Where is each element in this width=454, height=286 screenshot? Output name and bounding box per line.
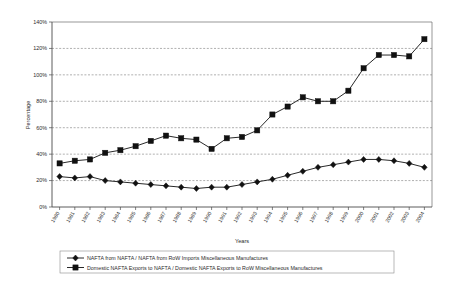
x-tick-label: 1987 (156, 210, 167, 223)
gridlines (52, 48, 432, 180)
percentage-line-chart: 0%20%40%60%80%100%120%140% 1980198119821… (0, 0, 454, 286)
x-tick-label: 1985 (125, 210, 136, 223)
y-tick-label: 100% (33, 72, 47, 78)
x-tick-label: 1991 (217, 210, 228, 223)
data-series (57, 37, 427, 192)
x-tick-label: 2004 (414, 210, 425, 223)
series-marker-square (239, 134, 244, 139)
series-marker-square (209, 146, 214, 151)
x-tick-label: 1984 (110, 210, 121, 223)
series-marker-diamond (346, 159, 352, 165)
x-tick-label: 1990 (201, 210, 212, 223)
x-tick-label: 1980 (49, 210, 60, 223)
x-tick-label: 1988 (171, 210, 182, 223)
series-marker-diamond (391, 158, 397, 164)
series-marker-diamond (254, 179, 260, 185)
y-tick-label: 60% (36, 125, 47, 131)
series-marker-diamond (209, 184, 215, 190)
series-marker-diamond (102, 178, 108, 184)
x-tick-label: 1986 (141, 210, 152, 223)
series-marker-square (300, 95, 305, 100)
series-marker-diamond (224, 184, 230, 190)
legend-label-1: Domestic NAFTA Exports to NAFTA / Domest… (87, 265, 323, 271)
x-tick-label: 1998 (323, 210, 334, 223)
series-marker-square (376, 52, 381, 57)
x-tick-label: 1981 (65, 210, 76, 223)
x-tick-label: 1992 (232, 210, 243, 223)
y-tick-label: 120% (33, 45, 47, 51)
series-marker-diamond (148, 182, 154, 188)
series-marker-square (285, 104, 290, 109)
series-marker-square (270, 112, 275, 117)
series-marker-diamond (315, 164, 321, 170)
series-marker-square (87, 157, 92, 162)
y-tick-label: 80% (36, 98, 47, 104)
x-tick-label: 1994 (262, 210, 273, 223)
series-marker-square (57, 161, 62, 166)
series-marker-square (163, 133, 168, 138)
y-axis: 0%20%40%60%80%100%120%140% (33, 19, 52, 210)
series-marker-diamond (87, 174, 93, 180)
series-marker-square (72, 158, 77, 163)
x-tick-label: 1995 (277, 210, 288, 223)
series-marker-diamond (72, 175, 78, 181)
x-tick-label: 1999 (338, 210, 349, 223)
series-marker-square (148, 138, 153, 143)
x-tick-label: 1993 (247, 210, 258, 223)
series-marker-diamond (239, 182, 245, 188)
y-tick-label: 140% (33, 19, 47, 25)
x-tick-label: 2003 (399, 210, 410, 223)
x-tick-label: 2002 (384, 210, 395, 223)
series-marker-diamond (300, 168, 306, 174)
series-marker-diamond (285, 172, 291, 178)
x-axis: 1980198119821983198419851986198719881989… (49, 207, 425, 223)
series-marker-square (361, 66, 366, 71)
series-marker-diamond (118, 179, 124, 185)
series-marker-diamond (194, 186, 200, 192)
series-marker-diamond (376, 156, 382, 162)
y-axis-title: Percentage (25, 101, 31, 130)
chart-container: 0%20%40%60%80%100%120%140% 1980198119821… (0, 0, 454, 286)
series-marker-diamond (361, 156, 367, 162)
series-marker-square (179, 136, 184, 141)
series-marker-diamond (178, 184, 184, 190)
series-marker-diamond (57, 174, 63, 180)
x-tick-label: 1997 (308, 210, 319, 223)
y-tick-label: 40% (36, 151, 47, 157)
series-marker-diamond (163, 183, 169, 189)
legend-label-0: NAFTA from NAFTA / NAFTA from RoW Import… (87, 255, 268, 261)
series-marker-square (103, 150, 108, 155)
series-marker-square (224, 136, 229, 141)
series-marker-square (315, 99, 320, 104)
x-tick-label: 1989 (186, 210, 197, 223)
series-marker-square (346, 88, 351, 93)
y-tick-label: 20% (36, 177, 47, 183)
x-tick-label: 1983 (95, 210, 106, 223)
y-tick-label: 0% (39, 204, 47, 210)
series-marker-square (118, 148, 123, 153)
series-marker-square (407, 54, 412, 59)
series-marker-square (73, 265, 78, 270)
series-marker-square (194, 137, 199, 142)
series-marker-diamond (330, 162, 336, 168)
chart-legend: NAFTA from NAFTA / NAFTA from RoW Import… (60, 251, 394, 273)
x-tick-label: 2000 (353, 210, 364, 223)
series-marker-square (391, 52, 396, 57)
series-marker-diamond (422, 164, 428, 170)
x-tick-label: 1982 (80, 210, 91, 223)
series-marker-square (422, 37, 427, 42)
series-marker-square (331, 99, 336, 104)
series-marker-square (255, 128, 260, 133)
series-marker-diamond (406, 160, 412, 166)
series-marker-square (133, 144, 138, 149)
series-marker-diamond (270, 176, 276, 182)
series-marker-diamond (133, 180, 139, 186)
x-tick-label: 2001 (369, 210, 380, 223)
x-axis-title: Years (235, 238, 249, 244)
x-tick-label: 1996 (293, 210, 304, 223)
